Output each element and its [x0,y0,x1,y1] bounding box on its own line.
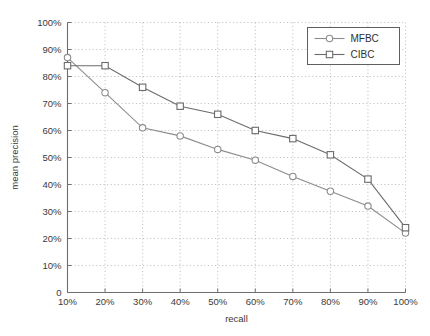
x-tick-label: 60% [246,296,266,307]
series-line [68,66,406,228]
legend-marker-circle [326,35,332,41]
data-point-marker-circle [177,133,183,139]
y-tick-label: 60% [42,125,62,136]
x-tick-label: 70% [283,296,303,307]
y-tick-label: 40% [42,179,62,190]
x-tick-label: 50% [208,296,228,307]
x-tick-label: 30% [133,296,153,307]
data-point-marker-square [327,152,333,158]
chart-figure: 010%20%30%40%50%60%70%80%90%100%10%20%30… [0,0,430,336]
x-tick-label: 90% [358,296,378,307]
x-tick-label: 20% [96,296,116,307]
data-point-marker-square [102,63,108,69]
y-tick-label: 30% [42,206,62,217]
y-axis-title: mean precision [9,125,20,189]
data-point-marker-circle [215,146,221,152]
legend-marker-square [326,51,332,57]
data-point-marker-circle [252,157,258,163]
series-mfbc [64,54,408,236]
data-point-marker-circle [327,188,333,194]
data-point-marker-square [252,127,258,133]
y-tick-label: 90% [42,44,62,55]
chart-legend: MFBCCIBC [308,28,400,65]
x-tick-label: 100% [393,296,418,307]
x-tick-label: 10% [58,296,78,307]
series-cibc [64,63,408,231]
series-line [68,58,406,234]
x-axis-title: recall [225,313,248,324]
data-point-marker-square [402,225,408,231]
data-point-marker-square [177,103,183,109]
y-tick-label: 50% [42,152,62,163]
precision-recall-chart: 010%20%30%40%50%60%70%80%90%100%10%20%30… [0,0,430,336]
data-point-marker-square [365,176,371,182]
x-tick-label: 40% [171,296,191,307]
data-point-marker-circle [290,173,296,179]
x-tick-label: 80% [321,296,341,307]
data-point-marker-square [290,135,296,141]
data-point-marker-circle [365,203,371,209]
data-point-marker-square [139,84,145,90]
data-point-marker-square [215,111,221,117]
legend-label: MFBC [351,33,379,44]
y-tick-label: 80% [42,71,62,82]
data-point-marker-circle [64,54,70,60]
y-tick-label: 100% [37,17,62,28]
y-tick-label: 20% [42,233,62,244]
data-point-marker-square [64,63,70,69]
y-tick-label: 70% [42,98,62,109]
data-series [64,54,408,236]
data-point-marker-circle [139,125,145,131]
y-tick-label: 10% [42,260,62,271]
data-point-marker-circle [102,90,108,96]
legend-label: CIBC [351,49,375,60]
